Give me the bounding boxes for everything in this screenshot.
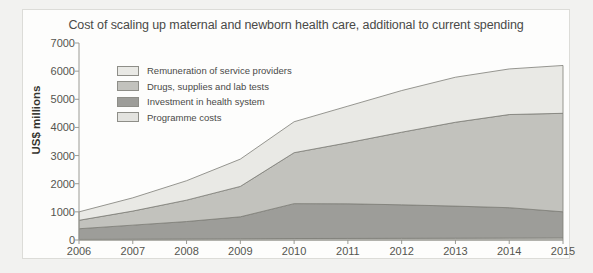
x-tick-2015: 2015 <box>551 245 575 257</box>
legend-swatch <box>117 66 139 76</box>
y-tick-2000: 2000 <box>33 178 75 190</box>
x-tick-2006: 2006 <box>67 245 91 257</box>
y-tick-4000: 4000 <box>33 121 75 133</box>
y-tick-6000: 6000 <box>33 65 75 77</box>
x-tick-2010: 2010 <box>282 245 306 257</box>
legend-item: Investment in health system <box>117 94 292 110</box>
y-tick-3000: 3000 <box>33 150 75 162</box>
y-axis-ticks: 01000200030004000500060007000 <box>33 10 75 260</box>
legend-item: Drugs, supplies and lab tests <box>117 79 292 95</box>
x-tick-2011: 2011 <box>336 245 360 257</box>
x-axis-ticks: 2006200720082009201020112012201320142015 <box>23 243 569 263</box>
x-tick-2013: 2013 <box>443 245 467 257</box>
x-tick-2014: 2014 <box>497 245 521 257</box>
legend-label: Investment in health system <box>147 96 265 107</box>
legend-swatch <box>117 81 139 91</box>
legend-label: Programme costs <box>147 112 221 123</box>
x-tick-2007: 2007 <box>121 245 145 257</box>
chart-title: Cost of scaling up maternal and newborn … <box>23 18 569 32</box>
legend-swatch <box>117 97 139 107</box>
chart-legend: Remuneration of service providersDrugs, … <box>117 63 292 125</box>
y-tick-7000: 7000 <box>33 37 75 49</box>
legend-label: Remuneration of service providers <box>147 65 292 76</box>
x-tick-2009: 2009 <box>228 245 252 257</box>
y-tick-1000: 1000 <box>33 206 75 218</box>
legend-swatch <box>117 112 139 122</box>
x-tick-2012: 2012 <box>389 245 413 257</box>
x-tick-2008: 2008 <box>174 245 198 257</box>
y-tick-5000: 5000 <box>33 93 75 105</box>
chart-frame: Cost of scaling up maternal and newborn … <box>22 9 570 259</box>
legend-label: Drugs, supplies and lab tests <box>147 81 269 92</box>
legend-item: Remuneration of service providers <box>117 63 292 79</box>
legend-item: Programme costs <box>117 110 292 126</box>
